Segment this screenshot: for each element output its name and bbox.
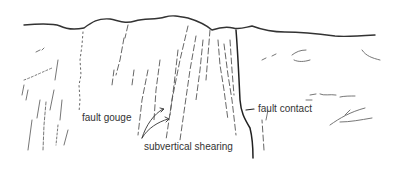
subvertical-shear-lines	[112, 25, 264, 150]
fault-gouge-band	[79, 32, 83, 112]
left-scratch-marks	[22, 48, 68, 150]
subvertical-shearing-label: subvertical shearing	[144, 142, 233, 152]
fault-gouge-label: fault gouge	[82, 113, 132, 123]
fault-contact-leader	[246, 109, 254, 110]
geological-sketch: fault gouge subvertical shearing fault c…	[0, 0, 407, 170]
shearing-arrows	[142, 108, 169, 138]
fault-contact-label: fault contact	[258, 104, 312, 114]
fault-contact-line	[236, 30, 253, 158]
ground-surface-line	[24, 16, 375, 37]
